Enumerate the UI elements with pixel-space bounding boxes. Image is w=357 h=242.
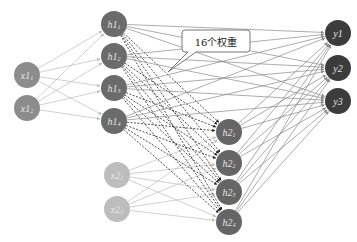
node-x2_1: x21	[104, 162, 130, 188]
edge-h2_2-y1	[237, 44, 329, 153]
edge-x1_2-h1_1	[36, 34, 104, 99]
edge-x1_1-h1_1	[38, 31, 102, 68]
edge-x1_2-h1_3	[40, 91, 101, 105]
edge-h1_4-h2_3	[125, 128, 217, 185]
edge-h2_2-y2	[239, 77, 328, 154]
node-h1_4: h14	[101, 108, 127, 134]
node-h1_3: h13	[101, 75, 127, 101]
node-h1_1: h11	[101, 11, 127, 37]
node-h2_2: h22	[216, 150, 242, 176]
node-h2_3: h23	[216, 179, 242, 205]
node-h1_2: h12	[101, 43, 127, 69]
edge-x2_2-h2_1	[128, 140, 218, 202]
node-x2_2: x22	[104, 196, 130, 222]
edge-x2_2-h2_3	[130, 194, 215, 207]
edge-h2_4-y3	[238, 111, 329, 212]
edge-h1_3-h2_1	[126, 93, 216, 127]
edge-x1_1-h1_3	[40, 77, 100, 86]
edge-h1_2-y2	[127, 57, 324, 68]
weights-callout: 16个权重	[168, 30, 250, 72]
edge-h2_3-y2	[238, 79, 329, 183]
edge-x1_2-h1_2	[38, 63, 102, 101]
edge-h1_2-h2_4	[121, 67, 221, 211]
edge-x2_2-h2_4	[130, 210, 215, 220]
node-y2: y2	[325, 55, 351, 81]
edge-h2_4-y1	[235, 45, 331, 211]
node-x1_2: x12	[14, 95, 40, 121]
node-y3: y3	[325, 88, 351, 114]
neural-network-diagram: x11x12h11h12h13h14x21x22h21h22h23h24y1y2…	[0, 0, 357, 242]
edge-h2_3-y3	[239, 110, 327, 184]
edge-x1_2-h1_4	[40, 110, 100, 119]
node-h2_4: h24	[216, 209, 242, 235]
node-label: y1	[332, 28, 342, 39]
node-label: y2	[332, 63, 342, 74]
edge-h2_4-y2	[237, 79, 330, 211]
edge-x2_1-h2_3	[130, 177, 215, 190]
edge-h1_1-h2_4	[121, 35, 222, 210]
node-x1_1: x11	[14, 62, 40, 88]
edge-h1_4-h2_2	[126, 125, 216, 158]
edge-h2_2-y3	[240, 108, 326, 157]
node-h2_1: h21	[216, 119, 242, 145]
node-label: y3	[332, 96, 342, 107]
node-y1: y1	[325, 20, 351, 46]
edge-x2_1-h2_4	[129, 180, 216, 217]
edge-h1_3-h2_2	[125, 95, 217, 155]
callout-label: 16个权重	[195, 36, 238, 48]
edge-x1_1-h1_2	[40, 59, 101, 72]
connection-edges	[36, 25, 331, 221]
